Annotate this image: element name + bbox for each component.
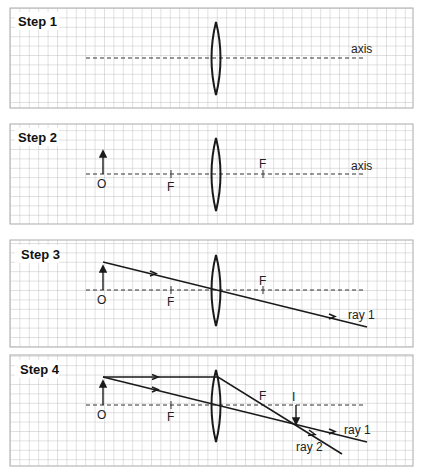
step-label: Step 1 — [18, 14, 57, 29]
object-label: O — [97, 293, 106, 307]
focal-point-right-label: F — [259, 274, 266, 288]
focal-point-left-label: F — [167, 410, 174, 424]
object-label: O — [97, 177, 106, 191]
ray-diagram-figure: Step 1 axis Step 2 O F F axis Step 3 O F… — [0, 0, 423, 476]
focal-point-right-label: F — [259, 389, 266, 403]
focal-point-right-label: F — [259, 157, 266, 171]
axis-label: axis — [351, 42, 372, 56]
ray-1-label: ray 1 — [348, 308, 375, 322]
object-label: O — [97, 408, 106, 422]
axis-label: axis — [351, 159, 372, 173]
focal-point-left-label: F — [167, 180, 174, 194]
panel-step-4: Step 4 O F F I ray 1 ray 2 — [10, 355, 413, 466]
step-label: Step 2 — [18, 130, 57, 145]
panel-step-2: Step 2 O F F axis — [10, 124, 413, 224]
focal-point-left-label: F — [167, 295, 174, 309]
panel-step-3: Step 3 O F F ray 1 — [10, 240, 413, 347]
image-label: I — [292, 390, 295, 404]
ray-1-label: ray 1 — [344, 423, 371, 437]
step-label: Step 4 — [20, 362, 60, 377]
ray-2-label: ray 2 — [296, 440, 323, 454]
panel-step-1: Step 1 axis — [10, 8, 413, 108]
step-label: Step 3 — [21, 247, 60, 262]
